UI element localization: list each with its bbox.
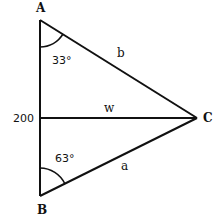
side-label-b: b: [117, 46, 125, 60]
vertex-label-B: B: [37, 203, 47, 217]
angle-label-A: 33°: [52, 54, 72, 67]
angle-label-B: 63°: [55, 152, 75, 165]
triangle-diagram: A B C 200 b a w 33° 63°: [0, 0, 217, 222]
angle-arc-A: [40, 34, 63, 47]
angle-arc-B: [40, 168, 65, 184]
side-length-AB: 200: [13, 112, 34, 125]
side-label-a: a: [121, 159, 128, 173]
vertex-label-A: A: [35, 1, 46, 15]
vertex-label-C: C: [203, 111, 213, 125]
side-AC: [40, 20, 197, 118]
segment-label-w: w: [104, 101, 115, 115]
